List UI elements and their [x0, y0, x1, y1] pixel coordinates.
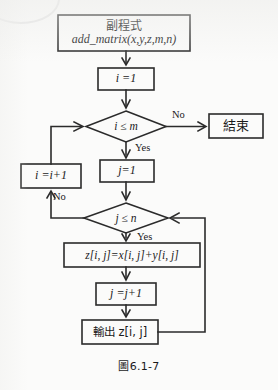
node-init-j-label: j=1 [100, 160, 154, 182]
node-inc-i-label: i =i+1 [21, 164, 81, 188]
node-start-label: 副程式 add_matrix(x,y,z,m,n) [58, 15, 190, 51]
edge-label-cond-i-yes: Yes [135, 143, 150, 154]
edge-label-cond-i-no: No [172, 110, 185, 121]
node-cond-i-label: i ≤ m [86, 111, 166, 142]
edge-inc-i-to-cond-i [51, 127, 81, 165]
node-inc-j-label: j =j+1 [96, 283, 156, 305]
node-assign-z-label: z[i, j]=x[i, j]+y[i, j] [64, 243, 200, 267]
node-end-label: 結束 [209, 114, 263, 138]
edge-label-cond-j-yes: Yes [137, 232, 152, 243]
node-start-line2: add_matrix(x,y,z,m,n) [72, 33, 177, 46]
figure-canvas: 副程式 add_matrix(x,y,z,m,n) i =1 i ≤ m 結束 … [0, 0, 278, 390]
edge-output-loop-to-cond-j [158, 218, 205, 332]
node-output-text: 輸出 z[i, j] [93, 326, 147, 339]
node-output-label: 輸出 z[i, j] [82, 320, 158, 344]
node-cond-j-label: j ≤ n [84, 203, 168, 233]
node-start-line1: 副程式 [106, 20, 142, 33]
edge-label-cond-j-no: No [53, 192, 66, 203]
figure-caption: 圖6.1-7 [0, 357, 278, 373]
node-init-i-label: i =1 [98, 68, 154, 90]
